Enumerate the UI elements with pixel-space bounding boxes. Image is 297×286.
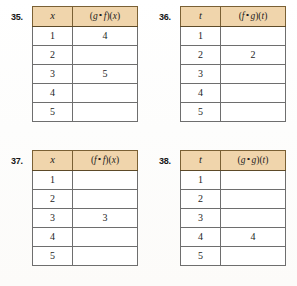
cell-input: 5 [33,103,73,122]
exercise-36: 36. t (f∘g)(t) 1 2 [159,6,286,122]
paren-close: ) [116,155,119,165]
table-row: 3 [181,65,286,84]
column-header-output: (g∘f)(x) [73,7,138,27]
table-row: 1 4 [33,27,138,46]
cell-input: 5 [181,247,221,266]
cell-input: 5 [33,247,73,266]
cell-output[interactable] [73,171,138,190]
cell-input: 5 [181,103,221,122]
paren-close: ) [265,155,268,165]
table-header-row: t (f∘g)(t) [181,7,286,27]
table-header-row: t (g∘g)(t) [181,151,286,171]
column-header-input-label: t [199,154,202,165]
column-header-output: (g∘g)(t) [221,151,286,171]
table-row: 3 [181,209,286,228]
cell-output[interactable] [73,247,138,266]
cell-input: 4 [33,228,73,247]
table-header-row: x (f∘f)(x) [33,151,138,171]
function-table-36: t (f∘g)(t) 1 2 2 3 [180,6,286,122]
cell-output[interactable]: 3 [73,209,138,228]
column-header-input-label: t [199,10,202,21]
paren-close: ) [117,11,120,21]
column-header-output-label: (g∘g)(t) [238,155,269,165]
exercise-number-38: 38. [159,150,180,166]
column-header-input-label: x [50,154,55,165]
cell-input: 3 [33,209,73,228]
table-row: 5 [33,247,138,266]
table-row: 1 [181,27,286,46]
column-header-output-label: (f∘g)(t) [239,11,268,21]
cell-input: 2 [181,190,221,209]
cell-input: 4 [181,84,221,103]
table-row: 4 [33,84,138,103]
table-row: 3 5 [33,65,138,84]
table-row: 2 [181,190,286,209]
paren-close: ) [264,11,267,21]
column-header-input: x [33,7,73,27]
table-row: 1 [33,171,138,190]
table-row: 2 [33,46,138,65]
column-header-output-label: (g∘f)(x) [90,11,120,21]
function-table-37: x (f∘f)(x) 1 2 3 3 [32,150,138,266]
cell-output[interactable] [73,103,138,122]
cell-output[interactable]: 5 [73,65,138,84]
cell-output[interactable] [221,209,286,228]
cell-output[interactable] [73,190,138,209]
column-header-input: t [181,151,221,171]
table-row: 4 4 [181,228,286,247]
cell-input: 2 [181,46,221,65]
cell-input: 2 [33,190,73,209]
table-header-row: x (g∘f)(x) [33,7,138,27]
cell-input: 3 [181,209,221,228]
cell-output[interactable]: 2 [221,46,286,65]
cell-output[interactable] [221,103,286,122]
cell-input: 3 [33,65,73,84]
cell-output[interactable] [73,228,138,247]
column-header-input: x [33,151,73,171]
cell-output[interactable]: 4 [73,27,138,46]
exercise-number-36: 36. [159,6,180,22]
worksheet-page: 35. x (g∘f)(x) 1 4 2 [0,0,297,286]
cell-input: 3 [181,65,221,84]
cell-output[interactable] [73,84,138,103]
cell-output[interactable] [221,247,286,266]
table-row: 5 [181,247,286,266]
cell-input: 4 [181,228,221,247]
table-row: 4 [33,228,138,247]
cell-output[interactable] [221,171,286,190]
cell-output[interactable] [221,27,286,46]
cell-input: 1 [33,171,73,190]
column-header-output-label: (f∘f)(x) [91,155,119,165]
cell-output[interactable] [221,84,286,103]
function-table-38: t (g∘g)(t) 1 2 3 [180,150,286,266]
table-row: 5 [181,103,286,122]
cell-output[interactable] [221,65,286,84]
cell-input: 1 [181,27,221,46]
function-left: g [241,155,246,165]
cell-output[interactable] [221,190,286,209]
table-row: 2 [33,190,138,209]
function-table-35: x (g∘f)(x) 1 4 2 3 5 [32,6,138,122]
cell-input: 1 [33,27,73,46]
exercise-37: 37. x (f∘f)(x) 1 2 [11,150,138,266]
table-row: 5 [33,103,138,122]
cell-input: 1 [181,171,221,190]
exercise-38: 38. t (g∘g)(t) 1 2 [159,150,286,266]
table-row: 4 [181,84,286,103]
cell-output[interactable] [73,46,138,65]
cell-input: 2 [33,46,73,65]
column-header-input-label: x [50,10,55,21]
table-row: 2 2 [181,46,286,65]
table-row: 3 3 [33,209,138,228]
exercise-35: 35. x (g∘f)(x) 1 4 2 [11,6,138,122]
column-header-output: (f∘f)(x) [73,151,138,171]
exercise-number-37: 37. [11,150,32,166]
cell-input: 4 [33,84,73,103]
cell-output[interactable]: 4 [221,228,286,247]
column-header-input: t [181,7,221,27]
column-header-output: (f∘g)(t) [221,7,286,27]
exercise-number-35: 35. [11,6,32,22]
table-row: 1 [181,171,286,190]
